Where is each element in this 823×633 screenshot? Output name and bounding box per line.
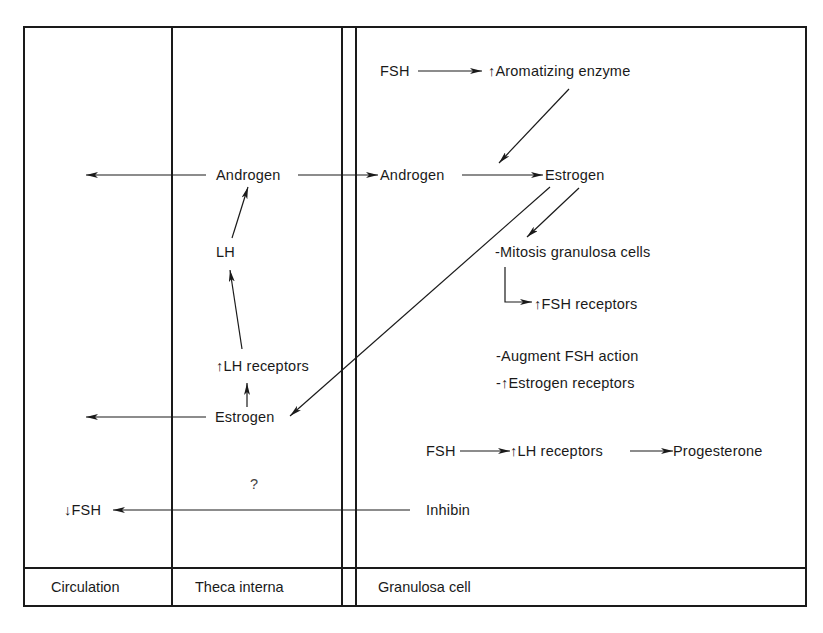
column-label-theca-interna: Theca interna	[195, 579, 284, 595]
node-question: ?	[250, 476, 258, 492]
node-augment-fsh: -Augment FSH action	[496, 348, 638, 364]
node-aromatizing-enzyme: ↑Aromatizing enzyme	[488, 63, 630, 79]
arrow-estrogen-mitosis	[527, 188, 579, 237]
node-fsh-receptors: ↑FSH receptors	[534, 296, 638, 312]
arrow-aromatizing-conversion	[499, 89, 569, 163]
node-fsh-bottom: FSH	[426, 443, 456, 459]
node-granulosa-androgen: Androgen	[380, 167, 445, 183]
node-lh-receptors-theca: ↑LH receptors	[216, 358, 309, 374]
arrow-lh-androgen	[232, 187, 248, 238]
outer-frame	[24, 27, 806, 606]
node-lh-receptors-granulosa: ↑LH receptors	[510, 443, 603, 459]
node-fsh-circulation: ↓FSH	[64, 502, 101, 518]
column-label-granulosa-cell: Granulosa cell	[378, 579, 471, 595]
node-granulosa-estrogen: Estrogen	[545, 167, 605, 183]
arrow-mitosis-fshreceptors	[505, 267, 532, 302]
node-fsh-top: FSH	[380, 63, 410, 79]
column-label-circulation: Circulation	[51, 579, 120, 595]
arrow-lhreceptors-lh	[230, 270, 242, 349]
node-progesterone: Progesterone	[673, 443, 762, 459]
diagram-canvas	[0, 0, 823, 633]
node-lh: LH	[216, 244, 235, 260]
node-inhibin: Inhibin	[426, 502, 470, 518]
node-estrogen-receptors: -↑Estrogen receptors	[496, 375, 635, 391]
node-mitosis: -Mitosis granulosa cells	[495, 244, 651, 260]
node-theca-estrogen: Estrogen	[215, 409, 275, 425]
node-theca-androgen: Androgen	[216, 167, 281, 183]
